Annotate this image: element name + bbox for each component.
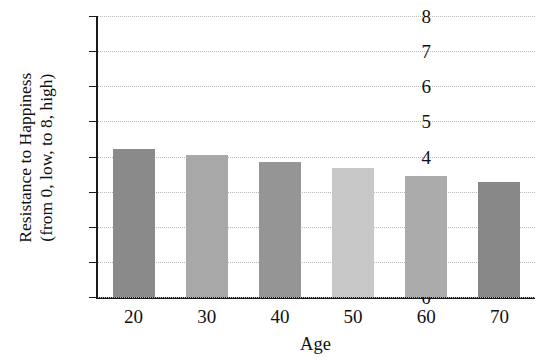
y-tick-mark (89, 192, 96, 193)
bar-40 (259, 162, 301, 297)
bar-70 (478, 182, 520, 297)
y-tick-mark (89, 157, 96, 158)
x-tick-label-60: 60 (396, 307, 456, 326)
y-axis-label-line-2: (from 0, low, to 8, high) (36, 72, 57, 242)
y-tick-mark (89, 51, 96, 52)
y-tick-label: 7 (407, 42, 431, 61)
gridline (98, 297, 535, 298)
plot-area: 876543210 203040506070 (96, 16, 535, 297)
y-tick-label: 5 (407, 112, 431, 131)
y-tick-mark (89, 86, 96, 87)
y-tick-mark (89, 297, 96, 298)
y-tick-mark (89, 262, 96, 263)
gridline (98, 157, 535, 158)
gridline (98, 192, 535, 193)
y-axis-label: Resistance to Happiness (from 0, low, to… (0, 0, 72, 315)
gridline (98, 86, 535, 87)
gridline (98, 51, 535, 52)
bar-chart-figure: Resistance to Happiness (from 0, low, to… (0, 0, 544, 363)
y-tick-label: 4 (407, 148, 431, 167)
gridline (98, 262, 535, 263)
y-tick-mark (89, 16, 96, 17)
bar-20 (113, 149, 155, 297)
x-tick-label-20: 20 (104, 307, 164, 326)
y-tick-label: 6 (407, 77, 431, 96)
y-axis-label-line-1: Resistance to Happiness (15, 72, 36, 242)
bar-60 (405, 176, 447, 297)
x-axis-label: Age (96, 334, 535, 355)
x-tick-label-40: 40 (250, 307, 310, 326)
y-tick-label: 8 (407, 7, 431, 26)
gridline (98, 16, 535, 17)
gridline (98, 121, 535, 122)
gridline (98, 227, 535, 228)
x-tick-label-30: 30 (177, 307, 237, 326)
bar-30 (186, 155, 228, 297)
bar-50 (332, 168, 374, 297)
y-tick-mark (89, 121, 96, 122)
x-tick-label-50: 50 (323, 307, 383, 326)
x-tick-label-70: 70 (469, 307, 529, 326)
y-tick-mark (89, 227, 96, 228)
